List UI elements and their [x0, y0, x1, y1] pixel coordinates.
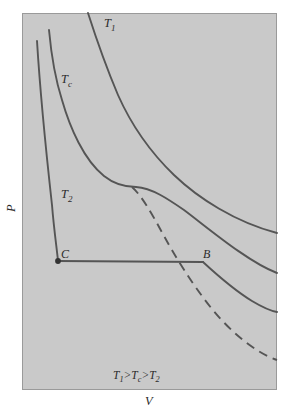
y-axis-label: P — [5, 204, 18, 212]
curve-label-Tc-base: T — [61, 72, 68, 86]
curve-label-T2-sub: 2 — [68, 194, 73, 204]
relation-T2-sub: 2 — [156, 375, 160, 384]
curve-label-T2: T2 — [61, 188, 72, 204]
curve-label-T1-base: T — [104, 16, 111, 30]
coexistence-line-C-B — [58, 261, 203, 262]
isotherm-chart-svg — [0, 0, 292, 416]
curve-label-Tc-sub: c — [68, 79, 72, 89]
pv-isotherm-figure — [0, 0, 292, 416]
point-label-C: C — [61, 248, 69, 260]
temperature-relation-annotation: T1>Tc>T2 — [113, 370, 160, 385]
relation-gt-2: > — [141, 369, 149, 381]
curve-label-T2-base: T — [61, 187, 68, 201]
point-label-B: B — [203, 248, 210, 260]
curve-label-Tc: Tc — [61, 73, 72, 89]
curve-label-T1: T1 — [104, 17, 115, 33]
curve-label-T1-sub: 1 — [111, 23, 116, 33]
x-axis-label: V — [145, 395, 153, 408]
